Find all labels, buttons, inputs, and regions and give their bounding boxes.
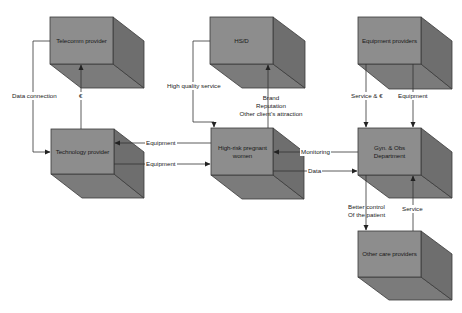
edge-label-better-control: Better control Of the patient <box>347 203 386 219</box>
node-label-other-care-providers: Other care providers <box>358 231 421 277</box>
edge-label-data: Data <box>307 167 322 175</box>
edge-label-service-euro: Service & € <box>350 92 384 100</box>
edge-label-equipment-to-women: Equipment <box>145 160 177 168</box>
edge-label-euro: € <box>78 92 83 100</box>
node-label-equipment-providers: Equipment providers <box>358 17 421 64</box>
edge-label-service: Service <box>401 205 424 213</box>
node-label-telecomm: Telecomm provider <box>50 17 113 64</box>
node-label-hsd: HS/D <box>210 17 273 64</box>
node-label-technology-provider: Technology provider <box>51 129 114 174</box>
edge-label-equipment-supply: Equipment <box>397 92 429 100</box>
edge-label-monitoring: Monitoring <box>300 148 331 156</box>
edge-label-equipment-to-tech: Equipment <box>145 139 177 147</box>
edge-label-data-connection: Data connection <box>11 92 58 100</box>
edge-label-brand-reputation: Brand Reputation Other client's attracti… <box>231 94 311 118</box>
node-label-high-risk-pregnant-women: High-risk pregnant women <box>211 128 274 175</box>
node-label-gyn-obs: Gyn. & Obs Department <box>358 128 421 175</box>
edge-label-high-quality-service: High quality service <box>166 82 222 90</box>
